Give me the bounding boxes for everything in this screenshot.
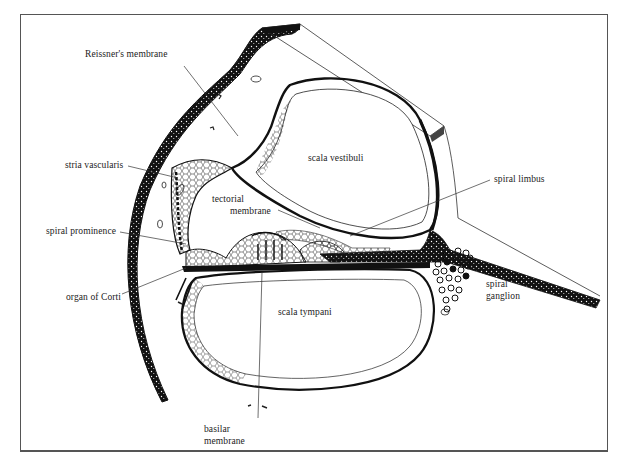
label-reissners-membrane: Reissner's membrane [85, 49, 168, 60]
label-scala-tympani: scala tympani [278, 307, 332, 318]
label-spiral-limbus: spiral limbus [494, 174, 545, 185]
label-spiral-ganglion-line2: ganglion [486, 291, 520, 302]
label-organ-of-corti: organ of Corti [66, 292, 121, 303]
label-scala-vestibuli: scala vestibuli [308, 153, 364, 164]
scala-tympani-wall [176, 269, 434, 389]
label-tectorial-membrane-line1: tectorial [212, 194, 244, 205]
label-basilar-membrane-line1: basilar [204, 424, 230, 435]
label-spiral-ganglion-line1: spiral [486, 279, 508, 290]
label-spiral-prominence: spiral prominence [46, 226, 116, 237]
label-basilar-membrane-line2: membrane [204, 436, 245, 447]
label-tectorial-membrane-line2: membrane [230, 206, 271, 217]
label-stria-vascularis: stria vascularis [65, 160, 123, 171]
